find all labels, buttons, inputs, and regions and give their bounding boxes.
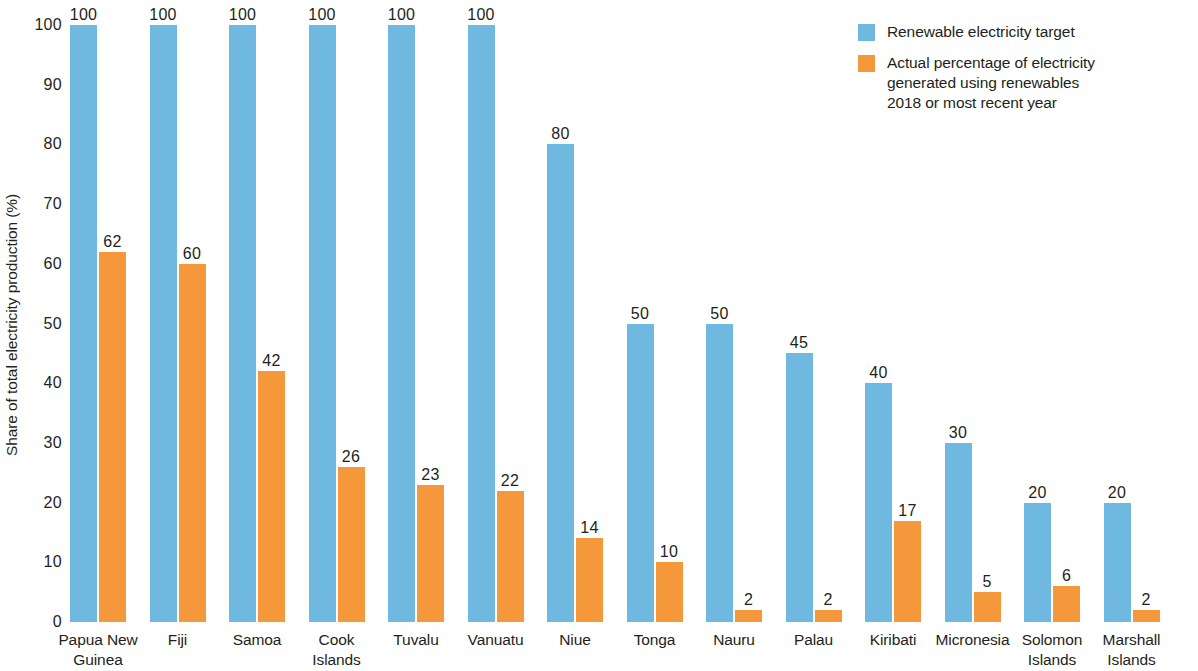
y-axis-title: Share of total electricity production (%… bbox=[3, 95, 21, 555]
bar-target: 100 bbox=[468, 25, 495, 622]
y-axis-tick-70: 70 bbox=[20, 195, 62, 213]
bar-value-label: 5 bbox=[965, 574, 1009, 590]
bar-group: 10026 bbox=[307, 25, 367, 622]
bar-value-label: 50 bbox=[618, 306, 662, 322]
bar-value-label: 10 bbox=[647, 544, 691, 560]
bar-target: 100 bbox=[70, 25, 97, 622]
bar-actual: 14 bbox=[576, 538, 603, 622]
bar-value-label: 26 bbox=[329, 449, 373, 465]
bar-actual: 23 bbox=[417, 485, 444, 622]
chart-legend: Renewable electricity targetActual perce… bbox=[858, 22, 1188, 124]
bar-value-label: 14 bbox=[568, 520, 612, 536]
y-axis-tick-80: 80 bbox=[20, 135, 62, 153]
legend-label-line: 2018 or most recent year bbox=[887, 93, 1095, 113]
bar-target: 50 bbox=[706, 324, 733, 623]
bar-value-label: 100 bbox=[300, 7, 344, 23]
bar-actual: 6 bbox=[1053, 586, 1080, 622]
bar-value-label: 20 bbox=[1095, 485, 1139, 501]
bar-value-label: 20 bbox=[1016, 485, 1060, 501]
legend-swatch bbox=[858, 55, 875, 72]
bar-group: 452 bbox=[784, 25, 844, 622]
bar-value-label: 60 bbox=[170, 246, 214, 262]
y-axis-tick-90: 90 bbox=[20, 76, 62, 94]
bar-actual: 42 bbox=[258, 371, 285, 622]
bar-actual: 5 bbox=[974, 592, 1001, 622]
bar-group: 502 bbox=[704, 25, 764, 622]
bar-value-label: 100 bbox=[221, 7, 265, 23]
bar-value-label: 23 bbox=[409, 467, 453, 483]
x-axis-label-line: Marshall bbox=[1074, 630, 1190, 650]
bar-group: 10023 bbox=[386, 25, 446, 622]
bar-value-label: 2 bbox=[1124, 592, 1168, 608]
bar-value-label: 80 bbox=[539, 126, 583, 142]
legend-label: Renewable electricity target bbox=[887, 22, 1075, 42]
legend-item: Renewable electricity target bbox=[858, 22, 1188, 42]
bar-target: 100 bbox=[150, 25, 177, 622]
bar-value-label: 6 bbox=[1045, 568, 1089, 584]
x-axis-label: MarshallIslands bbox=[1074, 630, 1190, 670]
legend-label-line: Renewable electricity target bbox=[887, 22, 1075, 42]
bar-group: 10022 bbox=[466, 25, 526, 622]
bar-value-label: 100 bbox=[380, 7, 424, 23]
y-axis-tick-60: 60 bbox=[20, 255, 62, 273]
bar-value-label: 62 bbox=[91, 234, 135, 250]
bar-group: 10062 bbox=[68, 25, 128, 622]
bar-group: 8014 bbox=[545, 25, 605, 622]
bar-value-label: 40 bbox=[857, 365, 901, 381]
bar-value-label: 100 bbox=[141, 7, 185, 23]
x-axis-label-line: Guinea bbox=[40, 650, 156, 670]
y-axis-tick-10: 10 bbox=[20, 553, 62, 571]
bar-value-label: 17 bbox=[886, 503, 930, 519]
bar-target: 80 bbox=[547, 144, 574, 622]
y-axis-tick-30: 30 bbox=[20, 434, 62, 452]
bar-value-label: 2 bbox=[727, 592, 771, 608]
y-axis-tick-40: 40 bbox=[20, 374, 62, 392]
legend-label: Actual percentage of electricitygenerate… bbox=[887, 53, 1095, 113]
y-axis-tick-50: 50 bbox=[20, 315, 62, 333]
bar-value-label: 45 bbox=[777, 335, 821, 351]
legend-label-line: generated using renewables bbox=[887, 73, 1095, 93]
bar-target: 30 bbox=[945, 443, 972, 622]
bar-target: 100 bbox=[388, 25, 415, 622]
bar-value-label: 22 bbox=[488, 473, 532, 489]
bar-actual: 22 bbox=[497, 491, 524, 622]
bar-target: 50 bbox=[627, 324, 654, 623]
bar-actual: 26 bbox=[338, 467, 365, 622]
bar-actual: 10 bbox=[656, 562, 683, 622]
bar-target: 100 bbox=[229, 25, 256, 622]
bar-target: 45 bbox=[786, 353, 813, 622]
x-axis-label-line: Islands bbox=[1074, 650, 1190, 670]
bar-actual: 2 bbox=[1133, 610, 1160, 622]
x-axis-label-line: Islands bbox=[279, 650, 395, 670]
bar-actual: 2 bbox=[735, 610, 762, 622]
bar-actual: 2 bbox=[815, 610, 842, 622]
bar-value-label: 100 bbox=[62, 7, 106, 23]
legend-swatch bbox=[858, 24, 875, 41]
bar-group: 5010 bbox=[625, 25, 685, 622]
bar-value-label: 50 bbox=[698, 306, 742, 322]
bar-actual: 60 bbox=[179, 264, 206, 622]
bar-chart: Share of total electricity production (%… bbox=[0, 0, 1198, 671]
bar-value-label: 42 bbox=[250, 353, 294, 369]
y-axis-tick-100: 100 bbox=[20, 16, 62, 34]
bar-group: 10060 bbox=[148, 25, 208, 622]
bar-value-label: 30 bbox=[936, 425, 980, 441]
legend-item: Actual percentage of electricitygenerate… bbox=[858, 53, 1188, 113]
bar-actual: 62 bbox=[99, 252, 126, 622]
bar-group: 10042 bbox=[227, 25, 287, 622]
bar-target: 100 bbox=[309, 25, 336, 622]
bar-target: 20 bbox=[1024, 503, 1051, 622]
bar-value-label: 100 bbox=[459, 7, 503, 23]
y-axis-tick-0: 0 bbox=[20, 613, 62, 631]
legend-label-line: Actual percentage of electricity bbox=[887, 53, 1095, 73]
y-axis-tick-20: 20 bbox=[20, 494, 62, 512]
bar-actual: 17 bbox=[894, 521, 921, 622]
bar-value-label: 2 bbox=[806, 592, 850, 608]
